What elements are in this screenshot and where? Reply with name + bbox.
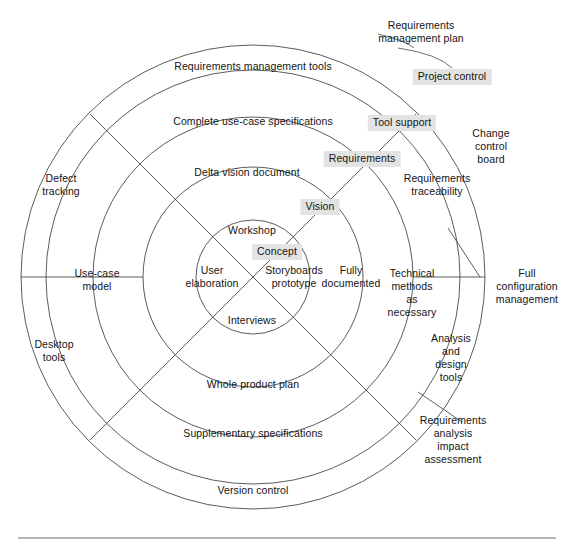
- label-use-case-model: Use-case model: [74, 267, 119, 293]
- label-user-elaboration: User elaboration: [185, 264, 238, 290]
- callout-leader-curve: [398, 48, 452, 68]
- label-requirements-traceability: Requirements traceability: [404, 172, 471, 198]
- label-requirements-management-tools: Requirements management tools: [174, 60, 332, 73]
- label-change-control-board: Change control board: [472, 127, 509, 166]
- label-project-control: Project control: [413, 69, 492, 85]
- label-workshop: Workshop: [228, 224, 276, 237]
- label-vision: Vision: [300, 199, 339, 215]
- diagram-root: Workshop Concept User elaboration Storyb…: [0, 0, 572, 550]
- label-requirements: Requirements: [324, 151, 401, 167]
- radial-divider-ese: [448, 228, 480, 277]
- label-version-control: Version control: [218, 484, 289, 497]
- label-storyboards-prototype: Storyboards prototype: [265, 264, 323, 290]
- label-complete-use-case-specifications: Complete use-case specifications: [173, 115, 333, 128]
- label-desktop-tools: Desktop tools: [34, 338, 73, 364]
- label-requirements-analysis-impact-assessment: Requirements analysis impact assessment: [420, 414, 487, 466]
- label-full-configuration-management: Full configuration management: [496, 267, 558, 306]
- label-fully-documented: Fully documented: [322, 264, 381, 290]
- label-interviews: Interviews: [228, 314, 276, 327]
- label-technical-methods: Technical methods as necessary: [388, 267, 437, 319]
- label-tool-support: Tool support: [368, 115, 436, 131]
- label-analysis-and-design-tools: Analysis and design tools: [431, 332, 471, 384]
- label-supplementary-specifications: Supplementary specifications: [183, 427, 322, 440]
- label-delta-vision-document: Delta vision document: [194, 166, 299, 179]
- label-defect-tracking: Defect tracking: [42, 172, 80, 198]
- label-whole-product-plan: Whole product plan: [207, 378, 299, 391]
- label-requirements-management-plan: Requirements management plan: [378, 19, 464, 45]
- label-concept: Concept: [252, 244, 302, 260]
